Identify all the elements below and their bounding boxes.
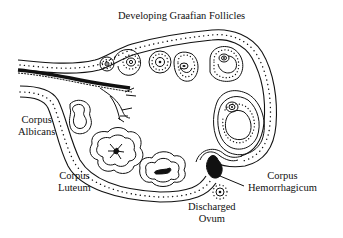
label-developing-graafian-follicles: Developing Graafian Follicles xyxy=(118,10,245,22)
label-line-2: Luteum xyxy=(58,182,91,194)
discharged-ovum xyxy=(213,185,227,199)
label-corpus-luteum: Corpus Luteum xyxy=(58,170,91,194)
label-line-2: Hemorrhagicum xyxy=(248,182,317,194)
corpus-luteum xyxy=(90,128,143,174)
label-corpus-hemorrhagicum: Corpus Hemorrhagicum xyxy=(248,170,317,194)
label-corpus-albicans: Corpus Albicans xyxy=(18,114,55,138)
corpus-luteum-2 xyxy=(140,152,186,187)
corpus-albicans xyxy=(69,100,91,133)
label-discharged-ovum: Discharged Ovum xyxy=(188,201,236,225)
label-line-1: Corpus xyxy=(248,170,317,182)
label-text: Developing Graafian Follicles xyxy=(118,10,245,21)
label-line-1: Corpus xyxy=(58,170,91,182)
label-line-1: Discharged xyxy=(188,201,236,213)
label-line-2: Ovum xyxy=(188,213,236,225)
label-line-2: Albicans xyxy=(18,126,55,138)
developing-follicles xyxy=(100,47,243,82)
ovary-diagram: Developing Graafian Follicles Corpus Alb… xyxy=(0,0,343,238)
label-line-1: Corpus xyxy=(18,114,55,126)
